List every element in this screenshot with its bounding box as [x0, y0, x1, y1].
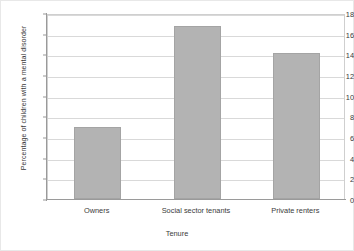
- y-axis-title: Percentage of children with a mental dis…: [20, 0, 28, 198]
- x-axis-line: [47, 199, 346, 200]
- gridline: [48, 15, 344, 16]
- bar: [273, 53, 320, 199]
- x-axis-title: Tenure: [0, 229, 354, 238]
- x-tick-label: Social sector tenants: [162, 206, 231, 215]
- x-tick-label: Private renters: [271, 206, 319, 215]
- plot-area: [47, 14, 345, 200]
- y-axis-line: [46, 13, 47, 201]
- bar-chart-figure: Percentage of children with a mental dis…: [0, 0, 354, 251]
- x-tick-label: Owners: [84, 206, 109, 215]
- bar: [74, 127, 121, 199]
- bar: [174, 26, 221, 199]
